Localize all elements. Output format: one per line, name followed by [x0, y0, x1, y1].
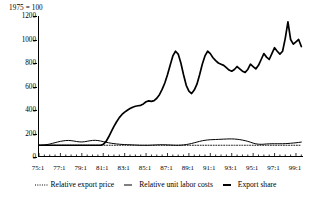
- y-tick-mark: [33, 134, 37, 135]
- x-tick-label: 97:1: [267, 164, 279, 172]
- x-tick-label: 85:1: [139, 164, 151, 172]
- x-tick-label: 91:1: [203, 164, 215, 172]
- x-tick-label: 93:1: [224, 164, 236, 172]
- x-tick-label: 75:1: [32, 164, 44, 172]
- x-tick-label: 81:1: [96, 164, 108, 172]
- thick-line-icon: [222, 182, 235, 188]
- x-tick-label: 95:1: [246, 164, 258, 172]
- x-tick-label: 77:1: [53, 164, 65, 172]
- series-line-1: [39, 139, 301, 145]
- legend-label: Export share: [238, 180, 277, 189]
- legend-item[interactable]: Export share: [222, 180, 277, 189]
- plot-area: [38, 16, 303, 157]
- x-axis-labels: 75:177:179:181:183:185:187:189:191:193:1…: [0, 161, 311, 175]
- y-tick-mark: [33, 157, 37, 158]
- y-tick-mark: [33, 40, 37, 41]
- x-tick-label: 79:1: [75, 164, 87, 172]
- y-tick-mark: [33, 110, 37, 111]
- y-tick-mark: [33, 63, 37, 64]
- chart-legend: Relative export priceRelative unit labor…: [0, 180, 311, 189]
- legend-label: Relative export price: [51, 180, 115, 189]
- legend-item[interactable]: Relative unit labor costs: [123, 180, 213, 189]
- x-tick-label: 89:1: [182, 164, 194, 172]
- x-tick-label: 87:1: [160, 164, 172, 172]
- thin-line-icon: [123, 182, 136, 188]
- legend-item[interactable]: Relative export price: [35, 180, 115, 189]
- y-tick-mark: [33, 87, 37, 88]
- series-line-2: [39, 22, 301, 145]
- x-tick-label: 83:1: [117, 164, 129, 172]
- y-tick-mark: [33, 16, 37, 17]
- x-tick-label: 99:1: [289, 164, 301, 172]
- plot-svg: [39, 16, 304, 157]
- legend-label: Relative unit labor costs: [139, 180, 213, 189]
- dotted-line-icon: [35, 182, 48, 188]
- chart-figure: 1975 = 100 020040060080010001200 75:177:…: [0, 0, 311, 205]
